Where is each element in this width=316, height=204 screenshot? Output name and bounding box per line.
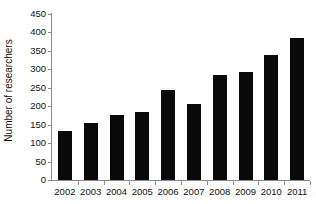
y-tick-label: 450: [6, 9, 46, 19]
x-tick-mark: [78, 181, 79, 185]
y-tick-mark: [48, 180, 52, 181]
y-tick-mark: [48, 51, 52, 52]
y-tick-mark: [48, 143, 52, 144]
y-tick-label: 0: [6, 175, 46, 185]
x-tick-mark: [233, 181, 234, 185]
x-tick-label-2011: 2011: [282, 187, 312, 197]
x-tick-mark: [310, 181, 311, 185]
y-tick-label: 50: [6, 157, 46, 167]
bar-2003[interactable]: [84, 123, 98, 180]
y-tick-mark: [48, 69, 52, 70]
bar-2002[interactable]: [58, 131, 72, 180]
y-tick-label: 300: [6, 64, 46, 74]
x-tick-mark: [258, 181, 259, 185]
y-tick-mark: [48, 88, 52, 89]
bar-2007[interactable]: [187, 104, 201, 180]
y-tick-label: 250: [6, 83, 46, 93]
y-tick-label: 100: [6, 138, 46, 148]
y-tick-label: 350: [6, 46, 46, 56]
y-tick-mark: [48, 14, 52, 15]
bar-2011[interactable]: [290, 38, 304, 180]
x-tick-mark: [104, 181, 105, 185]
bar-2008[interactable]: [213, 75, 227, 180]
bar-chart-figure: Number of researchers 050100150200250300…: [0, 0, 316, 204]
y-tick-label: 150: [6, 120, 46, 130]
x-tick-mark: [155, 181, 156, 185]
x-tick-mark: [129, 181, 130, 185]
y-tick-label: 200: [6, 101, 46, 111]
bar-2006[interactable]: [161, 90, 175, 180]
y-axis-line: [51, 13, 52, 181]
x-tick-mark: [284, 181, 285, 185]
y-tick-mark: [48, 106, 52, 107]
bar-2010[interactable]: [264, 55, 278, 180]
y-tick-mark: [48, 32, 52, 33]
bar-2005[interactable]: [135, 112, 149, 180]
x-tick-mark: [207, 181, 208, 185]
x-tick-mark: [181, 181, 182, 185]
bar-2004[interactable]: [110, 115, 124, 180]
y-tick-mark: [48, 125, 52, 126]
y-tick-label: 400: [6, 27, 46, 37]
y-tick-mark: [48, 162, 52, 163]
bar-2009[interactable]: [239, 72, 253, 180]
